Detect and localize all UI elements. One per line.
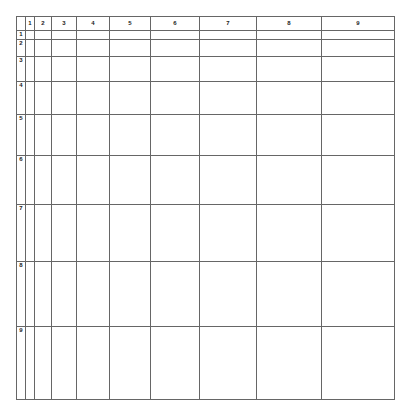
dot-array-cell-2x8 bbox=[257, 40, 322, 57]
table-row: 2 bbox=[17, 40, 395, 57]
dot-array-cell-9x8 bbox=[257, 327, 322, 400]
table-row: 8 bbox=[17, 262, 395, 327]
table-head: 123456789 bbox=[17, 17, 395, 31]
dot-array-cell-6x7 bbox=[200, 156, 257, 205]
table-row: 3 bbox=[17, 57, 395, 82]
dot-array-cell-6x8 bbox=[257, 156, 322, 205]
dot-array-cell-8x3 bbox=[52, 262, 77, 327]
dot-array-cell-7x6 bbox=[151, 205, 200, 262]
dot-array-cell-1x9 bbox=[322, 31, 395, 40]
dot-array-cell-4x2 bbox=[35, 82, 52, 115]
dot-array-cell-8x2 bbox=[35, 262, 52, 327]
dot-array-cell-8x1 bbox=[26, 262, 35, 327]
column-header-6: 6 bbox=[151, 17, 200, 31]
column-header-2: 2 bbox=[35, 17, 52, 31]
dot-array-cell-6x4 bbox=[77, 156, 110, 205]
dot-array-cell-1x3 bbox=[52, 31, 77, 40]
dot-array-cell-6x3 bbox=[52, 156, 77, 205]
dot-array-cell-9x6 bbox=[151, 327, 200, 400]
dot-array-cell-4x6 bbox=[151, 82, 200, 115]
column-header-7: 7 bbox=[200, 17, 257, 31]
dot-array-cell-5x2 bbox=[35, 115, 52, 156]
dot-array-cell-4x7 bbox=[200, 82, 257, 115]
row-header-6: 6 bbox=[17, 156, 26, 205]
dot-array-cell-1x5 bbox=[110, 31, 151, 40]
dot-array-cell-8x4 bbox=[77, 262, 110, 327]
dot-array-cell-5x8 bbox=[257, 115, 322, 156]
dot-array-cell-5x5 bbox=[110, 115, 151, 156]
dot-array-cell-2x2 bbox=[35, 40, 52, 57]
dot-array-cell-7x2 bbox=[35, 205, 52, 262]
dot-array-cell-4x4 bbox=[77, 82, 110, 115]
dot-array-cell-1x7 bbox=[200, 31, 257, 40]
column-header-1: 1 bbox=[26, 17, 35, 31]
dot-array-cell-3x5 bbox=[110, 57, 151, 82]
dot-array-cell-4x1 bbox=[26, 82, 35, 115]
dot-array-cell-1x2 bbox=[35, 31, 52, 40]
dot-array-cell-5x3 bbox=[52, 115, 77, 156]
table-body: 123456789 bbox=[17, 31, 395, 400]
dot-array-cell-4x3 bbox=[52, 82, 77, 115]
dot-array-cell-6x9 bbox=[322, 156, 395, 205]
dot-array-cell-1x8 bbox=[257, 31, 322, 40]
multiplication-dot-array-grid: 123456789 123456789 bbox=[16, 16, 395, 400]
table-row: 6 bbox=[17, 156, 395, 205]
dot-array-cell-9x1 bbox=[26, 327, 35, 400]
dot-array-cell-3x9 bbox=[322, 57, 395, 82]
dot-array-cell-3x3 bbox=[52, 57, 77, 82]
dot-array-table: 123456789 123456789 bbox=[16, 16, 395, 400]
column-header-8: 8 bbox=[257, 17, 322, 31]
dot-array-cell-5x7 bbox=[200, 115, 257, 156]
dot-array-cell-3x8 bbox=[257, 57, 322, 82]
row-header-5: 5 bbox=[17, 115, 26, 156]
dot-array-cell-9x3 bbox=[52, 327, 77, 400]
corner-cell bbox=[17, 17, 26, 31]
dot-array-cell-3x2 bbox=[35, 57, 52, 82]
dot-array-cell-2x4 bbox=[77, 40, 110, 57]
dot-array-cell-7x1 bbox=[26, 205, 35, 262]
dot-array-cell-6x5 bbox=[110, 156, 151, 205]
dot-array-cell-2x1 bbox=[26, 40, 35, 57]
row-header-8: 8 bbox=[17, 262, 26, 327]
row-header-9: 9 bbox=[17, 327, 26, 400]
dot-array-cell-6x6 bbox=[151, 156, 200, 205]
dot-array-cell-9x5 bbox=[110, 327, 151, 400]
dot-array-cell-2x3 bbox=[52, 40, 77, 57]
table-row: 1 bbox=[17, 31, 395, 40]
dot-array-cell-4x5 bbox=[110, 82, 151, 115]
dot-array-cell-4x8 bbox=[257, 82, 322, 115]
table-row: 5 bbox=[17, 115, 395, 156]
row-header-2: 2 bbox=[17, 40, 26, 57]
dot-array-cell-3x6 bbox=[151, 57, 200, 82]
dot-array-cell-7x4 bbox=[77, 205, 110, 262]
dot-array-cell-7x8 bbox=[257, 205, 322, 262]
dot-array-cell-2x7 bbox=[200, 40, 257, 57]
dot-array-cell-9x4 bbox=[77, 327, 110, 400]
row-header-4: 4 bbox=[17, 82, 26, 115]
dot-array-cell-6x1 bbox=[26, 156, 35, 205]
row-header-7: 7 bbox=[17, 205, 26, 262]
dot-array-cell-1x4 bbox=[77, 31, 110, 40]
dot-array-cell-2x5 bbox=[110, 40, 151, 57]
dot-array-cell-3x4 bbox=[77, 57, 110, 82]
column-header-3: 3 bbox=[52, 17, 77, 31]
dot-array-cell-1x1 bbox=[26, 31, 35, 40]
dot-array-cell-5x9 bbox=[322, 115, 395, 156]
dot-array-cell-8x5 bbox=[110, 262, 151, 327]
column-header-9: 9 bbox=[322, 17, 395, 31]
dot-array-cell-8x7 bbox=[200, 262, 257, 327]
dot-array-cell-7x7 bbox=[200, 205, 257, 262]
dot-array-cell-6x2 bbox=[35, 156, 52, 205]
dot-array-cell-7x3 bbox=[52, 205, 77, 262]
dot-array-cell-5x4 bbox=[77, 115, 110, 156]
dot-array-cell-8x6 bbox=[151, 262, 200, 327]
table-row: 7 bbox=[17, 205, 395, 262]
dot-array-cell-9x2 bbox=[35, 327, 52, 400]
dot-array-cell-8x9 bbox=[322, 262, 395, 327]
dot-array-cell-5x1 bbox=[26, 115, 35, 156]
row-header-1: 1 bbox=[17, 31, 26, 40]
dot-array-cell-3x1 bbox=[26, 57, 35, 82]
table-row: 9 bbox=[17, 327, 395, 400]
column-header-4: 4 bbox=[77, 17, 110, 31]
row-header-3: 3 bbox=[17, 57, 26, 82]
